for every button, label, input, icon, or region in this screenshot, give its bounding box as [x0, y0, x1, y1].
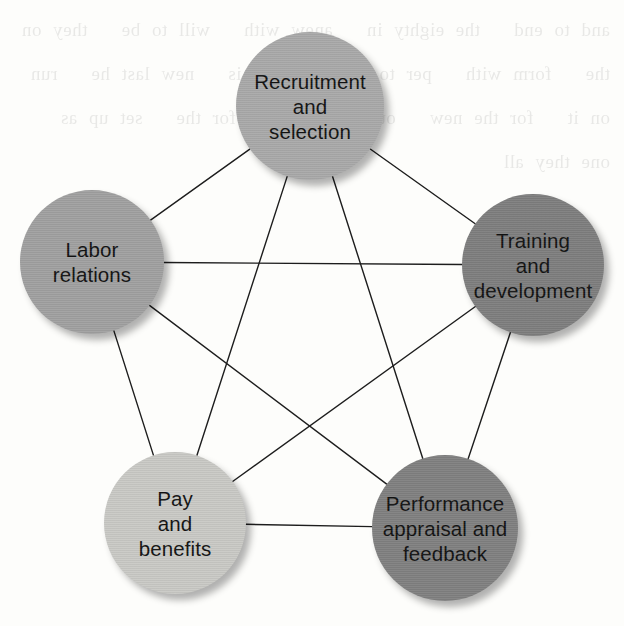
edge-training-to-labor — [164, 262, 462, 264]
node-recruitment-and-selection[interactable]: Recruitmentandselection — [236, 32, 384, 180]
edge-labor-to-recruitment — [151, 149, 250, 220]
node-labor-relations[interactable]: Laborrelations — [20, 190, 164, 334]
node-label: Performanceappraisal andfeedback — [378, 491, 512, 566]
edge-recruitment-to-pay — [197, 176, 287, 455]
node-label: Laborrelations — [26, 237, 158, 287]
diagram-canvas: and to end the eighty in anew with will … — [0, 0, 624, 626]
edge-pay-to-labor — [114, 331, 154, 456]
node-pay-and-benefits[interactable]: Payandbenefits — [104, 452, 246, 594]
edge-performance-to-pay — [246, 524, 372, 526]
edge-recruitment-to-training — [370, 149, 475, 224]
edge-recruitment-to-performance — [333, 176, 423, 458]
node-performance-appraisal-and-feedback[interactable]: Performanceappraisal andfeedback — [372, 455, 518, 601]
edge-training-to-performance — [468, 332, 510, 458]
node-training-and-development[interactable]: Traininganddevelopment — [462, 194, 604, 336]
node-label: Traininganddevelopment — [468, 228, 598, 303]
node-label: Payandbenefits — [110, 486, 240, 561]
node-label: Recruitmentandselection — [242, 69, 378, 144]
